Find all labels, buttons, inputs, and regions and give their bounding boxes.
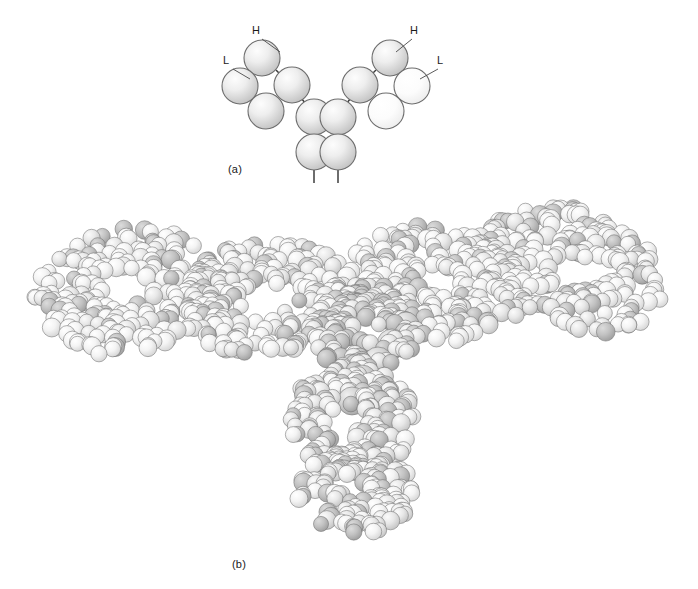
- domain-spheres: [222, 40, 430, 170]
- panel-b-caption: (b): [232, 558, 246, 570]
- heavy-chain-right-label: H: [410, 24, 418, 36]
- light-chain-right-label: L: [437, 54, 443, 66]
- light-chain-left-label: L: [223, 54, 229, 66]
- figure-root: HLHL (a) (b): [0, 0, 698, 589]
- domain-CH2-right: [320, 99, 356, 135]
- panel-a-caption: (a): [228, 163, 242, 175]
- domain-CL-left: [248, 93, 284, 129]
- domain-CH3-right: [320, 134, 356, 170]
- domain-CH1-left: [274, 67, 310, 103]
- domain-CH1-right: [342, 67, 378, 103]
- domain-CL-right: [368, 93, 404, 129]
- heavy-chain-left-label: H: [252, 24, 260, 36]
- panel-a-domain-schematic: HLHL: [0, 0, 698, 589]
